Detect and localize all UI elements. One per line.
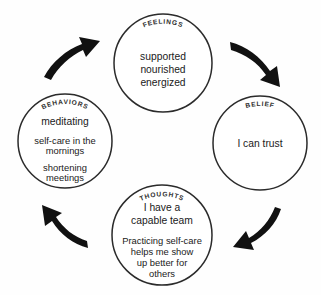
node-feelings-circle — [114, 14, 212, 112]
node-thoughts-line-3: Practicing self-care — [122, 235, 202, 246]
node-behaviors-line-3: mornings — [46, 145, 85, 156]
node-thoughts-line-5: up better for — [137, 257, 188, 268]
node-behaviors-line-1: meditating — [41, 116, 89, 127]
node-feelings[interactable]: FEELINGS supported nourished energized — [114, 14, 212, 112]
arrow-thoughts-to-behaviors — [42, 205, 88, 248]
node-belief-line-1: I can trust — [237, 138, 282, 149]
arrow-behaviors-to-feelings — [44, 37, 100, 80]
cycle-diagram: FEELINGS supported nourished energized B… — [0, 0, 321, 295]
arrow-belief-to-thoughts — [233, 207, 281, 250]
node-feelings-line-2: nourished — [140, 64, 185, 75]
node-feelings-line-1: supported — [140, 51, 186, 62]
node-thoughts-line-2: capable team — [131, 215, 193, 226]
arrow-feelings-to-belief — [230, 42, 280, 87]
node-behaviors-line-5: meetings — [46, 172, 84, 183]
node-belief[interactable]: BELIEF I can trust — [213, 96, 307, 190]
node-feelings-line-3: energized — [140, 77, 185, 88]
node-thoughts-line-1: I have a — [144, 202, 181, 213]
node-thoughts-line-6: others — [149, 268, 175, 279]
node-thoughts[interactable]: THOUGHTS I have a capable team Practicin… — [112, 185, 212, 285]
node-thoughts-line-4: helps me show — [131, 246, 194, 257]
node-behaviors[interactable]: BEHAVIORS meditating self-care in the mo… — [18, 94, 112, 188]
diagram-canvas: FEELINGS supported nourished energized B… — [0, 0, 321, 295]
